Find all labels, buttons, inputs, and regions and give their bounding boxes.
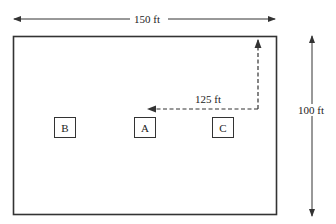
location-a: A: [134, 117, 156, 138]
path-dimension-label: 125 ft: [193, 93, 223, 105]
height-dimension-label: 100 ft: [296, 104, 326, 116]
location-c: C: [212, 117, 234, 138]
width-dimension-label: 150 ft: [132, 13, 162, 25]
location-b: B: [54, 117, 76, 138]
diagram-canvas: [0, 0, 336, 224]
